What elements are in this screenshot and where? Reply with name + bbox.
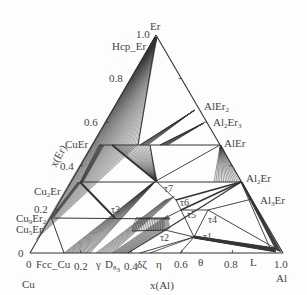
corner-label-cu: Cu bbox=[22, 278, 35, 290]
label-d83: D83 bbox=[105, 258, 120, 274]
label-cu2er: Cu2Er bbox=[34, 185, 61, 199]
boundary-line bbox=[160, 123, 204, 145]
label-tau2: τ2 bbox=[160, 232, 169, 243]
y-tick-0.4: 0.4 bbox=[60, 160, 74, 172]
label-tau6: τ6 bbox=[180, 197, 189, 208]
label-tau5: τ5 bbox=[187, 209, 196, 220]
label-gamma: γ bbox=[95, 258, 101, 270]
edge-al-er bbox=[156, 35, 283, 253]
x-tick-0.2: 0.2 bbox=[74, 260, 88, 272]
label-tau1: τ1 bbox=[203, 231, 212, 242]
label-liquid: L bbox=[250, 256, 257, 268]
boundary-line bbox=[51, 217, 64, 253]
tie-line bbox=[168, 124, 202, 145]
label-al2er: Al2Er bbox=[246, 172, 271, 186]
y-tick-0.6: 0.6 bbox=[84, 116, 98, 128]
x-tick-0.8: 0.8 bbox=[224, 258, 238, 270]
label-hcp-er: Hcp_Er bbox=[112, 40, 147, 52]
x-axis-title: x(Al) bbox=[150, 279, 174, 292]
label-fcc-cu: Fcc_Cu bbox=[36, 258, 71, 270]
tie-line bbox=[221, 146, 232, 182]
boundary-line bbox=[80, 182, 115, 218]
label-tau3: τ3 bbox=[111, 204, 120, 215]
label-al2er3: Al2Er3 bbox=[213, 116, 242, 130]
boundary-line bbox=[165, 210, 181, 218]
corner-label-er: Er bbox=[150, 20, 161, 32]
label-tau4: τ4 bbox=[208, 214, 217, 225]
label-aler2: AlEr2 bbox=[204, 100, 229, 114]
boundary-line bbox=[208, 199, 252, 210]
boundary-line bbox=[241, 182, 270, 248]
x-tick-0: 0 bbox=[26, 258, 32, 270]
y-tick-1.0: 1.0 bbox=[136, 28, 150, 40]
corner-label-al: Al bbox=[276, 272, 287, 284]
y-tick-0: 0 bbox=[18, 247, 24, 259]
tie-line bbox=[159, 218, 160, 231]
diagram-canvas: Er Cu Al x(Al) x(Er) 0 0.2 0.4 0.6 0.8 1… bbox=[0, 0, 307, 295]
label-delta-zeta: δζ bbox=[137, 258, 147, 271]
y-tick-0.8: 0.8 bbox=[109, 72, 123, 84]
label-cuer: CuEr bbox=[65, 138, 89, 150]
boundary-line bbox=[140, 110, 195, 145]
label-tau7: τ7 bbox=[164, 183, 173, 194]
x-tick-1.0: 1.0 bbox=[274, 258, 288, 270]
label-eta: η bbox=[156, 258, 162, 270]
boundary-line bbox=[156, 145, 220, 181]
tie-line bbox=[138, 145, 157, 181]
x-tick-0.6: 0.6 bbox=[174, 258, 188, 270]
tie-line bbox=[124, 145, 156, 181]
label-theta: θ bbox=[198, 256, 203, 268]
ternary-phase-diagram: Er Cu Al x(Al) x(Er) 0 0.2 0.4 0.6 0.8 1… bbox=[0, 0, 307, 295]
label-aler: AlEr bbox=[224, 137, 246, 149]
label-al3er: Al3Er bbox=[260, 194, 285, 208]
boundary-line bbox=[165, 230, 194, 237]
